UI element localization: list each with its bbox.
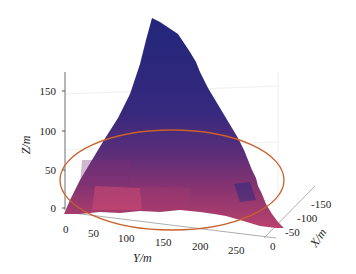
x-tick-neg50: -50	[285, 226, 300, 238]
z-tick-50: 50	[45, 164, 57, 176]
x-tick-0: 0	[270, 240, 276, 252]
y-tick-250: 250	[228, 244, 245, 256]
y-tick-100: 100	[118, 232, 135, 244]
y-tick-150: 150	[155, 236, 172, 248]
z-tick-0: 0	[51, 202, 57, 214]
x-tick-neg100: -100	[297, 212, 318, 224]
y-tick-50: 50	[88, 227, 100, 239]
z-tick-100: 100	[40, 125, 57, 137]
y-axis-label: Y/m	[133, 251, 152, 265]
z-axis-label: Z/m	[19, 135, 33, 154]
y-tick-200: 200	[192, 240, 209, 252]
x-axis-label: X/m	[306, 226, 329, 251]
surface	[64, 18, 284, 228]
surface-plot: 0 50 100 150 Z/m 0 50 100 150 200 250 Y/…	[0, 0, 356, 274]
z-axis: 0 50 100 150 Z/m	[19, 72, 65, 214]
y-tick-0: 0	[63, 223, 69, 235]
x-tick-neg150: -150	[311, 198, 332, 210]
z-tick-150: 150	[40, 85, 57, 97]
